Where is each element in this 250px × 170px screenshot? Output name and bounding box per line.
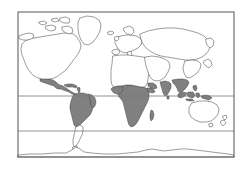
land-north-africa (111, 55, 150, 87)
map-canvas (0, 0, 250, 170)
land-tasmania (209, 123, 213, 127)
world-distribution-map (0, 0, 250, 170)
shaded-sri-lanka (167, 96, 169, 99)
